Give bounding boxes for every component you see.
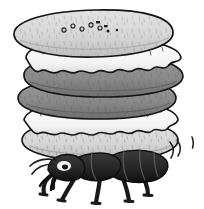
cookie-stack: [14, 10, 183, 161]
illustration-canvas: Ant carrying a stack of cream-filled san…: [0, 0, 204, 209]
ant-eye-pupil: [62, 165, 68, 170]
stack-layer-cookie-top: [14, 10, 173, 57]
ant-with-cookie-stack-drawing: [0, 0, 204, 209]
